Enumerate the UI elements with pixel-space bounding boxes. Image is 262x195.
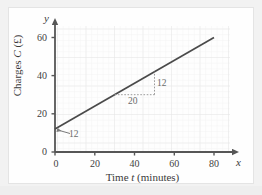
y-axis-name: y [44, 13, 49, 24]
x-tick-label-80: 80 [207, 159, 221, 169]
y-axis [52, 24, 56, 152]
y-tick-label-20: 20 [25, 109, 47, 119]
run-value-label: 20 [128, 97, 138, 107]
x-tick-label-60: 60 [167, 159, 181, 169]
plot-grid [55, 26, 230, 152]
x-tick-label-40: 40 [128, 159, 142, 169]
y-tick-label-40: 40 [25, 71, 47, 81]
y-axis-title-prefix: Charges [11, 58, 23, 97]
y-axis-title-suffix: (£) [11, 35, 23, 51]
x-tick-label-0: 0 [52, 159, 60, 169]
y-tick-label-0: 0 [31, 147, 47, 157]
intercept-value-label: 12 [69, 130, 79, 140]
x-axis-title-suffix: (minutes) [134, 171, 179, 183]
x-axis-title: Time t (minutes) [55, 172, 230, 183]
x-axis-name: x [236, 157, 241, 168]
x-axis-title-prefix: Time [106, 171, 132, 183]
y-tick-label-60: 60 [25, 33, 47, 43]
figure-container: 0 20 40 60 0 20 40 60 80 y x 12 12 20 Ti… [0, 0, 262, 195]
x-axis [55, 152, 233, 156]
x-tick-label-20: 20 [88, 159, 102, 169]
y-axis-title-variable: C [11, 50, 23, 57]
rise-value-label: 12 [157, 79, 167, 89]
y-axis-title: Charges C (£) [12, 11, 23, 121]
